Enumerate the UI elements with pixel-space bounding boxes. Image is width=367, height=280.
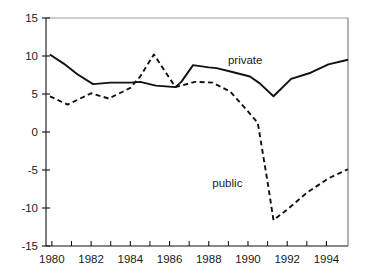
series-line-private xyxy=(50,54,348,96)
series-annotation-public: public xyxy=(212,177,242,189)
y-tick-label: -15 xyxy=(4,240,38,252)
x-tick-label: 1992 xyxy=(265,253,309,265)
line-chart: 151050-5-10-15 1980198219841986198819901… xyxy=(0,0,367,280)
x-tick-label: 1988 xyxy=(187,253,231,265)
y-tick-label: 10 xyxy=(4,50,38,62)
y-tick-label: -10 xyxy=(4,202,38,214)
series-line-public xyxy=(50,54,348,220)
x-tick-label: 1984 xyxy=(108,253,152,265)
axis-lines xyxy=(46,18,348,246)
y-tick-label: 5 xyxy=(4,88,38,100)
y-tick-label: -5 xyxy=(4,164,38,176)
series-annotation-private: private xyxy=(228,54,263,66)
y-tick-label: 15 xyxy=(4,12,38,24)
x-tick-label: 1986 xyxy=(148,253,192,265)
x-tick-label: 1994 xyxy=(304,253,348,265)
plot-area xyxy=(0,0,367,280)
x-tick-label: 1982 xyxy=(69,253,113,265)
y-tick-label: 0 xyxy=(4,126,38,138)
data-series xyxy=(50,54,348,220)
x-tick-label: 1980 xyxy=(30,253,74,265)
x-tick-label: 1990 xyxy=(226,253,270,265)
